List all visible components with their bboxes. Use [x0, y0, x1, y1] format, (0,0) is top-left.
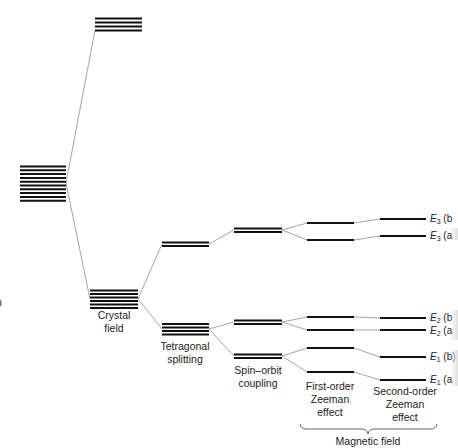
level-symbol: E — [430, 213, 437, 224]
level-label-e3b: E3 (b — [430, 213, 452, 228]
right-edge-fade — [450, 228, 458, 240]
label-line: Tetragonal — [150, 340, 220, 353]
right-edge-fade — [450, 310, 458, 340]
label-line: effect — [295, 406, 365, 419]
free-ion-block — [20, 167, 66, 201]
label-line: Zeeman — [295, 393, 365, 406]
spin-orbit-coupling-label: Spin–orbit coupling — [223, 364, 293, 390]
tetragonal-splitting-label: Tetragonal splitting — [150, 340, 220, 366]
level-symbol: E — [430, 374, 437, 385]
first-order-zeeman-label: First-order Zeeman effect — [295, 380, 365, 419]
level-symbol: E — [430, 312, 437, 323]
label-line: splitting — [150, 353, 220, 366]
level-label-e1a: E1 (a — [430, 374, 452, 389]
first-order-zeeman-levels — [307, 223, 354, 372]
left-edge-fragment: n — [0, 296, 2, 309]
level-label-e3a: E3 (a — [430, 230, 452, 245]
level-symbol: E — [430, 351, 437, 362]
crystal-field-label: Crystal field — [84, 309, 144, 335]
tetragonal-blocks — [162, 243, 209, 335]
magnetic-field-brace — [300, 424, 437, 434]
level-symbol: E — [430, 230, 437, 241]
right-edge-fade — [450, 350, 458, 386]
level-label-e2a: E2 (a — [430, 325, 452, 340]
label-line: Crystal — [84, 309, 144, 322]
spin-orbit-blocks — [234, 229, 282, 359]
label-line: effect — [367, 411, 443, 424]
label-line: field — [84, 322, 144, 335]
second-order-zeeman-label: Second-order Zeeman effect — [367, 385, 443, 424]
second-order-zeeman-levels — [380, 219, 426, 380]
crystal-field-block — [90, 291, 138, 309]
label-line: First-order — [295, 380, 365, 393]
label-line: Zeeman — [367, 398, 443, 411]
top-level-block — [95, 19, 142, 31]
level-symbol: E — [430, 325, 437, 336]
label-line: Spin–orbit — [223, 364, 293, 377]
magnetic-field-label: Magnetic field — [328, 435, 408, 448]
level-suffix: (b — [441, 213, 453, 224]
label-line: coupling — [223, 377, 293, 390]
